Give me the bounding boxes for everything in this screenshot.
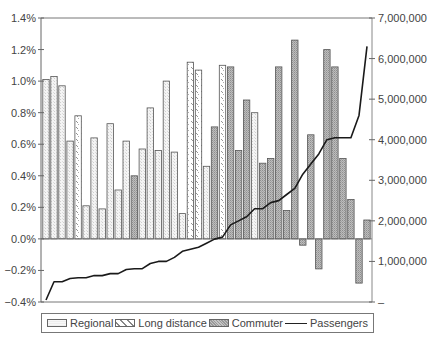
chart: 1.4%1.2%1.0%0.8%0.6%0.4%0.2%0.0%−0.2%−0.… [0, 0, 433, 344]
bar-commuter [356, 239, 362, 283]
legend-item-long-distance: Long distance [115, 317, 207, 329]
bar-regional [115, 190, 121, 239]
regional-swatch-icon [47, 319, 67, 327]
bar-regional [155, 151, 161, 239]
bar-commuter [284, 211, 290, 239]
bar-regional [99, 209, 105, 239]
left-tick-label: 1.0% [11, 75, 36, 87]
left-tick-label: 0.4% [11, 170, 36, 182]
bar-regional [179, 214, 185, 239]
bar-commuter [268, 158, 274, 239]
bar-regional [51, 76, 57, 239]
left-tick-label: 0.8% [11, 107, 36, 119]
left-tick-label: 1.2% [11, 44, 36, 56]
bar-commuter [276, 67, 282, 239]
right-tick-label: 1,000,000 [378, 255, 427, 267]
right-tick-label: 7,000,000 [378, 12, 427, 24]
bar-commuter [131, 176, 137, 239]
commuter-swatch-icon [209, 319, 229, 327]
bar-commuter [227, 67, 233, 239]
bar-series [41, 40, 372, 283]
right-tick-label: 3,000,000 [378, 174, 427, 186]
line-swatch-icon [285, 323, 307, 324]
bar-regional [139, 149, 145, 239]
left-tick-label: 0.6% [11, 138, 36, 150]
bar-regional [107, 124, 113, 239]
legend-label: Commuter [232, 317, 283, 329]
bar-regional [171, 152, 177, 239]
bar-long-distance [187, 62, 193, 239]
bar-commuter [260, 163, 266, 239]
bar-regional [163, 81, 169, 239]
bar-commuter [332, 67, 338, 239]
bar-regional [83, 206, 89, 239]
bar-commuter [348, 199, 354, 238]
right-tick-label: 5,000,000 [378, 93, 427, 105]
right-tick-label: – [378, 296, 385, 308]
left-y-axis: 1.4%1.2%1.0%0.8%0.6%0.4%0.2%0.0%−0.2%−0.… [5, 12, 45, 308]
right-tick-label: 2,000,000 [378, 215, 427, 227]
left-tick-label: 0.2% [11, 201, 36, 213]
legend-item-passengers: Passengers [285, 317, 368, 329]
bar-commuter [211, 127, 217, 239]
bar-long-distance [75, 116, 81, 239]
bar-long-distance [195, 70, 201, 239]
bar-regional [251, 113, 257, 239]
left-tick-label: −0.4% [5, 296, 37, 308]
left-tick-label: 0.0% [11, 233, 36, 245]
bar-commuter [316, 239, 322, 269]
bar-long-distance [219, 65, 225, 239]
bar-commuter [340, 158, 346, 239]
bar-regional [123, 141, 129, 239]
bar-regional [59, 86, 65, 239]
left-tick-label: 1.4% [11, 12, 36, 24]
legend-item-regional: Regional [47, 317, 113, 329]
bar-regional [91, 138, 97, 239]
right-tick-label: 6,000,000 [378, 53, 427, 65]
bar-commuter [292, 40, 298, 239]
bar-regional [147, 108, 153, 239]
legend-item-commuter: Commuter [209, 317, 283, 329]
right-y-axis: 7,000,0006,000,0005,000,0004,000,0003,00… [369, 12, 427, 308]
bar-commuter [308, 135, 314, 239]
legend: Regional Long distance Commuter Passenge… [41, 313, 374, 333]
long-distance-swatch-icon [115, 319, 135, 327]
bar-commuter [235, 151, 241, 239]
bar-regional [43, 80, 49, 239]
bar-regional [67, 141, 73, 239]
right-tick-label: 4,000,000 [378, 134, 427, 146]
bar-commuter [364, 220, 370, 239]
legend-label: Passengers [310, 317, 368, 329]
left-tick-label: −0.2% [5, 264, 37, 276]
legend-label: Long distance [138, 317, 207, 329]
bar-commuter [300, 239, 306, 245]
bar-regional [203, 166, 209, 239]
legend-label: Regional [70, 317, 113, 329]
